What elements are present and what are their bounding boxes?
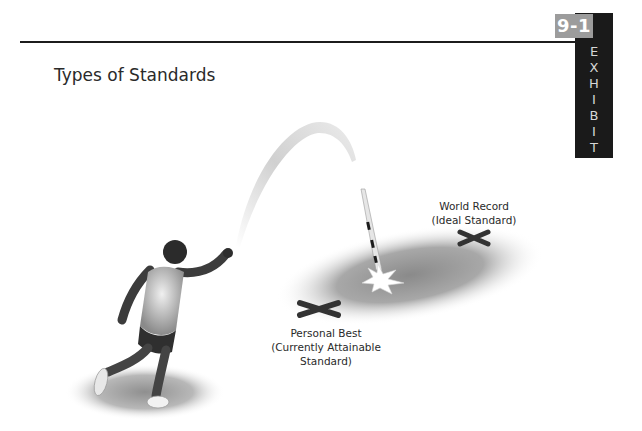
world-record-subtitle: (Ideal Standard)	[420, 213, 528, 227]
personal-best-label: Personal Best (Currently Attainable Stan…	[262, 326, 390, 368]
athlete-shadow	[65, 364, 225, 420]
personal-best-subtitle-2: Standard)	[262, 354, 390, 368]
world-record-label: World Record (Ideal Standard)	[420, 199, 528, 227]
javelin-arc-icon	[236, 122, 356, 247]
personal-best-subtitle-1: (Currently Attainable	[262, 340, 390, 354]
landing-field-shadow	[269, 207, 551, 343]
world-record-title: World Record	[420, 199, 528, 213]
personal-best-title: Personal Best	[262, 326, 390, 340]
